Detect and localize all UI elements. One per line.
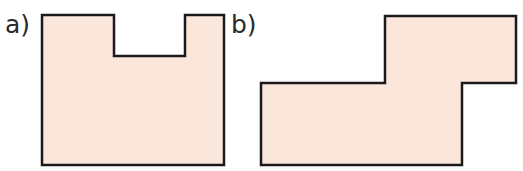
shape-b-step-polygon [261, 16, 516, 165]
shape-a-notched-rectangle [42, 15, 224, 165]
shapes-canvas [0, 0, 523, 171]
